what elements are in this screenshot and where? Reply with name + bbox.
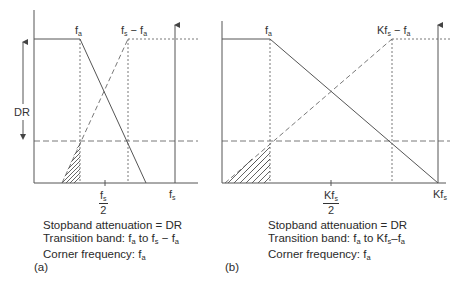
panel-a-plot xyxy=(20,10,198,186)
panel-b-kfs-minus-fa-label: Kfs − fa xyxy=(377,25,410,37)
panel-a-corner-text: Corner frequency: fa xyxy=(43,248,182,264)
panel-b-half-kfs-label: Kfs2 xyxy=(323,190,339,216)
panel-a-transition-text: Transition band: fa to fs − fa xyxy=(43,232,182,248)
panel-b-label: (b) xyxy=(225,261,239,274)
panel-b-corner-text: Corner frequency: fa xyxy=(268,248,407,264)
panel-b-plot xyxy=(222,21,450,186)
panel-a-half-fs-label: fs2 xyxy=(99,190,108,216)
panel-a-dr-label: DR xyxy=(14,106,30,119)
panel-a-stopband-text: Stopband attenuation = DR xyxy=(43,219,182,232)
panel-b-kfs-label: Kfs xyxy=(433,189,447,201)
panel-b-aliasing-hatch xyxy=(228,141,294,183)
panel-a-fa-label: fa xyxy=(75,25,82,37)
panel-b-stopband-text: Stopband attenuation = DR xyxy=(268,219,407,232)
panel-a-label: (a) xyxy=(34,261,48,274)
panel-a-fs-label: fs xyxy=(169,189,176,201)
panel-b-filter-rolloff xyxy=(270,39,438,183)
panel-a-fs-minus-fa-label: fs − fa xyxy=(121,25,147,37)
panel-a-filter-rolloff xyxy=(80,39,146,183)
panel-b-fa-label: fa xyxy=(265,25,272,37)
panel-b-caption: Stopband attenuation = DR Transition ban… xyxy=(268,219,407,264)
panel-a-aliasing-hatch xyxy=(58,131,96,183)
panel-a-caption: Stopband attenuation = DR Transition ban… xyxy=(43,219,182,264)
panel-b-transition-text: Transition band: fa to Kfs–fa xyxy=(268,232,407,248)
